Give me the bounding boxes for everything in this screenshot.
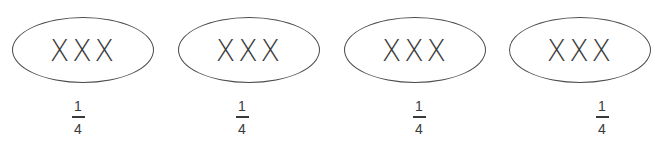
fraction-label: 1 4 <box>409 99 429 137</box>
fraction-label: 1 4 <box>68 99 88 137</box>
denominator: 4 <box>238 122 246 137</box>
numerator: 1 <box>238 99 246 114</box>
x-marks: XXX <box>215 33 282 68</box>
oval: XXX <box>509 17 651 83</box>
oval: XXX <box>344 17 486 83</box>
fraction-label: 1 4 <box>232 99 252 137</box>
numerator: 1 <box>598 99 606 114</box>
fraction-label: 1 4 <box>592 99 612 137</box>
numerator: 1 <box>74 99 82 114</box>
x-marks: XXX <box>49 33 116 68</box>
denominator: 4 <box>74 122 82 137</box>
fraction-bar <box>236 116 249 118</box>
x-marks: XXX <box>381 33 448 68</box>
oval: XXX <box>178 17 320 83</box>
x-marks: XXX <box>546 33 613 68</box>
denominator: 4 <box>598 122 606 137</box>
oval: XXX <box>12 17 154 83</box>
numerator: 1 <box>415 99 423 114</box>
fraction-bar <box>72 116 85 118</box>
fraction-bar <box>596 116 609 118</box>
denominator: 4 <box>415 122 423 137</box>
fraction-bar <box>413 116 426 118</box>
